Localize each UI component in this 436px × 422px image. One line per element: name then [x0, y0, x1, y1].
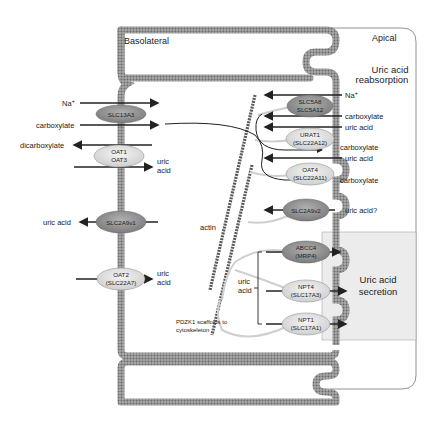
transporter-label: SLC5A12	[297, 106, 324, 113]
label-uric-acid-apical-1: uric acid	[345, 123, 373, 132]
transporter-label: (SLC17A3)	[291, 291, 322, 298]
transporter-oat4[interactable]: OAT4 (SLC22A11)	[286, 163, 334, 185]
transporter-label: URAT1	[300, 131, 320, 138]
label-uric-acid-3a: uric	[157, 269, 169, 278]
transporter-slc2a9v2[interactable]: SLC2A9v2	[283, 199, 329, 221]
label-carboxylate-apical-1: carboxylate	[345, 112, 383, 121]
transporter-label: OAT1	[111, 148, 127, 155]
secretion-bracket	[254, 252, 262, 324]
label-carboxylate-basolateral: carboxylate	[36, 121, 74, 130]
label-dicarboxylate: dicarboxylate	[20, 141, 64, 150]
transporter-label: (SLC22A11)	[293, 174, 327, 181]
transporter-label: NPT1	[298, 316, 314, 323]
secretion-label-line2: secretion	[359, 286, 398, 297]
secretion-label-line1: Uric acid	[360, 274, 397, 285]
urate-transport-diagram: SLC13A3 OAT1 OAT3 SLC2A9v1 OAT2 (SLC22A7…	[0, 0, 436, 422]
transporter-slc2a9v1[interactable]: SLC2A9v1	[96, 211, 146, 233]
label-carboxylate-apical-3: carboxylate	[340, 176, 378, 185]
label-uric-acid-apical-2: uric acid	[345, 154, 373, 163]
transporter-label: SLC2A9v2	[291, 207, 321, 214]
label-carboxylate-apical-2: carboxylate	[340, 143, 378, 152]
label-uric-acid-question: uric acid?	[345, 206, 377, 215]
label-uric-acid-1b: acid	[157, 166, 171, 175]
label-uric-acid-1a: uric	[157, 157, 169, 166]
transporter-label: (SLC22A12)	[293, 139, 327, 146]
transporter-oat2[interactable]: OAT2 (SLC22A7)	[97, 268, 145, 290]
transporter-label: OAT2	[113, 271, 129, 278]
apical-label: Apical	[372, 33, 397, 43]
transporter-label: SLC13A3	[108, 111, 135, 118]
label-actin: actin	[200, 223, 216, 232]
transporter-label: OAT4	[302, 166, 318, 173]
reabsorption-label-line2: reabsorption	[356, 74, 409, 85]
label-uric-acid-internal-a: uric	[238, 277, 250, 286]
transporter-label: (MRP4)	[295, 252, 316, 259]
membrane-bottom-cell	[121, 345, 336, 402]
label-uric-acid-3b: acid	[157, 278, 171, 287]
transporter-label: OAT3	[111, 156, 127, 163]
transporter-oat1-oat3[interactable]: OAT1 OAT3	[94, 145, 144, 167]
pdzk1-scaffolds	[218, 107, 290, 336]
transporter-npt4[interactable]: NPT4 (SLC17A3)	[282, 280, 330, 302]
transporter-label: (SLC22A7)	[106, 279, 137, 286]
transporter-label: ABCC4	[296, 244, 317, 251]
transporter-npt1[interactable]: NPT1 (SLC17A1)	[282, 313, 330, 335]
transporter-slc13a3[interactable]: SLC13A3	[96, 105, 146, 123]
transporter-slc5a8-slc5a12[interactable]: SLC5A8 SLC5A12	[287, 95, 333, 117]
transporter-label: (SLC17A1)	[291, 324, 322, 331]
basolateral-arrows	[74, 103, 158, 279]
label-uric-acid-internal-b: acid	[238, 286, 252, 295]
label-na-basolateral: Na+	[62, 98, 76, 108]
label-uric-acid-2: uric acid	[43, 218, 71, 227]
label-pdzk1-line2: cytoskeleton	[176, 327, 209, 333]
transporter-label: NPT4	[298, 283, 314, 290]
label-pdzk1-line1: PDZK1 scaffolds to	[176, 319, 228, 325]
label-na-apical: Na+	[345, 90, 359, 100]
transporter-label: SLC2A9v1	[106, 219, 136, 226]
transporter-abcc4[interactable]: ABCC4 (MRP4)	[282, 241, 330, 263]
transporter-urat1[interactable]: URAT1 (SLC22A12)	[286, 128, 334, 150]
actin-filaments	[210, 95, 255, 335]
transporter-label: SLC5A8	[298, 98, 322, 105]
basolateral-label: Basolateral	[124, 36, 169, 46]
